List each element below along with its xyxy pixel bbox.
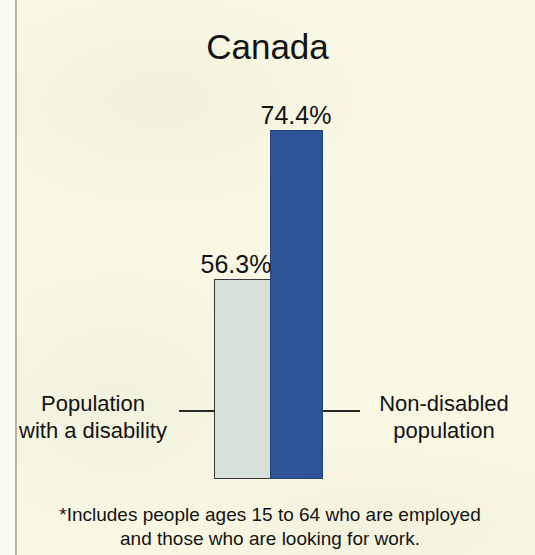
chart-figure: Canada 56.3% 74.4% Population with a dis… [0, 0, 535, 555]
leader-line-left [179, 410, 215, 412]
category-label-line1: Population [41, 391, 145, 416]
footnote-line2: and those who are looking for work. [16, 527, 524, 551]
category-label-line2: with a disability [19, 418, 167, 443]
category-label-line1: Non-disabled [379, 391, 509, 416]
chart-footnote: *Includes people ages 15 to 64 who are e… [16, 503, 524, 551]
bar-non-disabled-population [270, 130, 323, 479]
bar-population-with-a-disability [214, 279, 271, 479]
category-label-population-with-a-disability: Population with a disability [8, 390, 178, 444]
category-label-non-disabled-population: Non-disabled population [360, 390, 528, 444]
leader-line-right [323, 410, 360, 412]
footnote-line1: *Includes people ages 15 to 64 who are e… [16, 503, 524, 527]
value-label-population-with-a-disability: 56.3% [186, 250, 286, 278]
plot-area: 56.3% 74.4% Population with a disability… [0, 0, 535, 555]
value-label-non-disabled-population: 74.4% [246, 101, 346, 129]
category-label-line2: population [393, 418, 495, 443]
